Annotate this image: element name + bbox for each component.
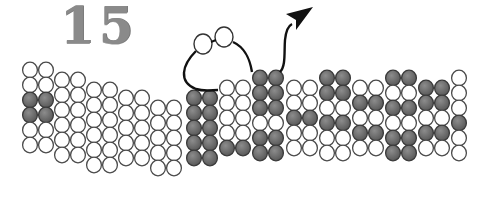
light-lipid-head: [236, 110, 251, 126]
light-lipid-head: [55, 72, 70, 88]
dark-lipid-head: [419, 80, 434, 96]
dark-lipid-head: [402, 145, 417, 161]
light-lipid-head: [71, 102, 86, 118]
dark-lipid-head: [303, 110, 318, 126]
dark-lipid-head: [23, 92, 38, 108]
column-group: [220, 80, 251, 156]
dark-lipid-head: [269, 85, 284, 101]
light-lipid-head: [87, 142, 102, 158]
light-lipid-head: [320, 100, 335, 116]
column-group: [452, 70, 467, 161]
light-lipid-head: [39, 62, 54, 78]
column-group: [287, 80, 318, 156]
light-lipid-head: [23, 77, 38, 93]
dark-lipid-head: [269, 130, 284, 146]
light-lipid-head: [151, 100, 166, 116]
bilayer-circles: [23, 62, 467, 176]
light-lipid-head: [220, 125, 235, 141]
column-group: [386, 70, 417, 161]
dark-lipid-head: [419, 125, 434, 141]
dark-lipid-head: [253, 100, 268, 116]
light-lipid-head: [103, 157, 118, 173]
light-lipid-head: [269, 115, 284, 131]
column-group: [151, 100, 182, 176]
light-lipid-head: [419, 110, 434, 126]
dark-lipid-head: [236, 140, 251, 156]
dark-lipid-head: [39, 92, 54, 108]
dark-lipid-head: [419, 95, 434, 111]
light-lipid-head: [103, 142, 118, 158]
dark-lipid-head: [269, 145, 284, 161]
dark-lipid-head: [203, 135, 218, 151]
light-lipid-head: [386, 115, 401, 131]
light-lipid-head: [253, 115, 268, 131]
dark-lipid-head: [369, 125, 384, 141]
light-lipid-head: [119, 120, 134, 136]
loop-beads: [194, 27, 233, 54]
column-group: [419, 80, 450, 156]
column-group: [187, 90, 218, 166]
light-lipid-head: [220, 95, 235, 111]
dark-lipid-head: [386, 100, 401, 116]
column-group: [87, 82, 118, 173]
column-group: [353, 80, 384, 156]
light-lipid-head: [23, 122, 38, 138]
dark-lipid-head: [452, 115, 467, 131]
light-lipid-head: [135, 150, 150, 166]
light-lipid-head: [452, 145, 467, 161]
light-lipid-head: [435, 140, 450, 156]
light-lipid-head: [87, 112, 102, 128]
light-lipid-head: [71, 72, 86, 88]
light-lipid-head: [135, 135, 150, 151]
light-lipid-head: [320, 145, 335, 161]
light-lipid-head: [402, 85, 417, 101]
light-lipid-head: [236, 125, 251, 141]
light-lipid-head: [303, 140, 318, 156]
light-lipid-head: [167, 130, 182, 146]
dark-lipid-head: [386, 70, 401, 86]
light-lipid-head: [55, 87, 70, 103]
dark-lipid-head: [23, 107, 38, 123]
light-lipid-head: [452, 70, 467, 86]
column-group: [119, 90, 150, 166]
arrow-strand: [280, 24, 292, 72]
light-lipid-head: [336, 145, 351, 161]
dark-lipid-head: [269, 100, 284, 116]
dark-lipid-head: [203, 150, 218, 166]
light-lipid-head: [103, 112, 118, 128]
dark-lipid-head: [220, 140, 235, 156]
dark-lipid-head: [353, 95, 368, 111]
light-lipid-head: [71, 147, 86, 163]
dark-lipid-head: [253, 85, 268, 101]
light-lipid-head: [119, 135, 134, 151]
light-lipid-head: [55, 132, 70, 148]
light-lipid-head: [220, 80, 235, 96]
light-lipid-head: [87, 97, 102, 113]
light-lipid-head: [135, 120, 150, 136]
dark-lipid-head: [187, 135, 202, 151]
light-lipid-head: [103, 127, 118, 143]
light-lipid-head: [103, 82, 118, 98]
light-lipid-head: [39, 122, 54, 138]
light-lipid-head: [336, 130, 351, 146]
light-lipid-head: [71, 117, 86, 133]
light-lipid-head: [435, 110, 450, 126]
dark-lipid-head: [253, 70, 268, 86]
membrane-diagram: 15: [0, 0, 488, 210]
dark-lipid-head: [39, 107, 54, 123]
light-lipid-head: [369, 110, 384, 126]
light-lipid-head: [103, 97, 118, 113]
light-lipid-head: [55, 117, 70, 133]
light-lipid-head: [303, 125, 318, 141]
dark-lipid-head: [336, 85, 351, 101]
light-lipid-head: [353, 110, 368, 126]
dark-lipid-head: [402, 130, 417, 146]
dark-lipid-head: [203, 120, 218, 136]
light-lipid-head: [71, 132, 86, 148]
dark-lipid-head: [336, 70, 351, 86]
light-lipid-head: [386, 85, 401, 101]
dark-lipid-head: [203, 105, 218, 121]
light-lipid-head: [23, 62, 38, 78]
column-group: [23, 62, 54, 153]
column-group: [320, 70, 351, 161]
